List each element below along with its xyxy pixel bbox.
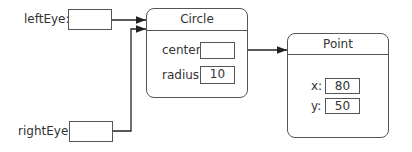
circle-title: Circle xyxy=(147,9,247,31)
point-title: Point xyxy=(288,34,388,55)
y-label: y: xyxy=(311,99,321,113)
rightEye-label: rightEye: xyxy=(18,124,72,138)
object-reference-diagram: leftEye: rightEye: Circle center: radius… xyxy=(0,0,412,152)
x-label: x: xyxy=(311,79,322,93)
rightEye-arrow xyxy=(101,29,146,131)
radius-label: radius: xyxy=(162,68,203,82)
leftEye-slot xyxy=(68,9,112,30)
y-slot: 50 xyxy=(325,98,360,114)
rightEye-slot xyxy=(69,121,113,142)
radius-slot: 10 xyxy=(200,66,235,84)
leftEye-label: leftEye: xyxy=(24,12,70,26)
center-slot xyxy=(200,42,235,59)
x-slot: 80 xyxy=(325,78,360,94)
center-label: center: xyxy=(162,43,204,57)
